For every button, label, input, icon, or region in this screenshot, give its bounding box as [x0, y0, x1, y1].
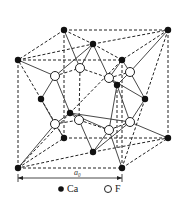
- ca-atom: [119, 165, 125, 171]
- arrow-left-icon: [18, 176, 23, 180]
- bond-edge: [117, 85, 130, 122]
- ca-atom: [165, 27, 171, 33]
- bond-edge: [18, 124, 55, 168]
- ca-atom: [61, 27, 67, 33]
- f-atom: [126, 118, 135, 127]
- ca-atom: [38, 96, 44, 102]
- ca-atom: [67, 110, 73, 116]
- bond-edge: [130, 122, 168, 138]
- ca-atom: [90, 149, 96, 155]
- ca-legend-label: Ca: [67, 183, 79, 194]
- ca-legend-icon: [58, 186, 64, 192]
- f-legend-label: F: [115, 183, 121, 194]
- f-atom: [126, 68, 135, 77]
- f-atom: [51, 72, 60, 81]
- f-atom: [51, 120, 60, 129]
- dashed-edge: [18, 30, 64, 60]
- lattice-constant-label: a₀: [74, 168, 81, 177]
- f-atom: [75, 116, 84, 125]
- f-legend-icon: [105, 186, 112, 193]
- ca-atom: [90, 41, 96, 47]
- fluorite-unit-cell-diagram: a₀ Ca F: [0, 0, 185, 203]
- ca-atom: [15, 57, 21, 63]
- bond-edge: [55, 76, 70, 113]
- ca-atom: [165, 135, 171, 141]
- dashed-edge: [64, 30, 93, 44]
- dashed-edge: [145, 30, 168, 99]
- dashed-edge: [18, 60, 41, 99]
- dimension-indicator: a₀: [18, 168, 122, 182]
- ca-atom: [119, 57, 125, 63]
- legend: Ca F: [58, 183, 121, 194]
- ca-atom: [61, 135, 67, 141]
- f-atom: [105, 126, 114, 135]
- bond-edge: [109, 130, 122, 168]
- dashed-edge: [18, 44, 93, 60]
- dashed-edge: [18, 138, 64, 168]
- bond-edge: [79, 120, 93, 152]
- dashed-edge: [79, 68, 80, 120]
- ca-atom: [142, 96, 148, 102]
- f-atom: [105, 74, 114, 83]
- ca-atom: [114, 82, 120, 88]
- bond-edge: [130, 30, 168, 72]
- bond-edge: [18, 60, 55, 76]
- dashed-edge: [93, 44, 122, 60]
- arrow-right-icon: [117, 176, 122, 180]
- bond-edge: [64, 30, 80, 68]
- ca-atom: [15, 165, 21, 171]
- ca-atoms: [15, 27, 171, 171]
- f-atom: [76, 64, 85, 73]
- bond-edge: [109, 85, 117, 130]
